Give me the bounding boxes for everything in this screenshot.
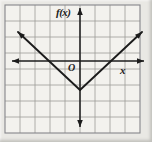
origin-label: O [68, 63, 75, 73]
graph-figure: f(x) x O [0, 0, 152, 142]
x-axis-label: x [120, 65, 125, 76]
graph-svg [0, 0, 152, 142]
y-axis-label: f(x) [56, 7, 71, 18]
